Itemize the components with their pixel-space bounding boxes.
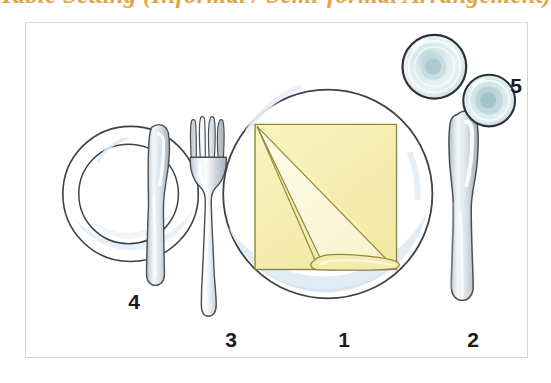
dinner-fork-group bbox=[190, 117, 226, 317]
side-plate-group bbox=[63, 126, 198, 261]
callout-label-3: 3 bbox=[219, 329, 243, 350]
callout-label-2: 2 bbox=[461, 329, 485, 350]
table-setting-illustration bbox=[26, 23, 527, 357]
dinner-knife-group bbox=[449, 111, 478, 300]
callout-label-4: 4 bbox=[122, 291, 146, 312]
water-glass-group bbox=[402, 35, 466, 99]
page-title: Table Setting (Informal / Semi-formal Ar… bbox=[0, 0, 551, 9]
callout-label-1: 1 bbox=[332, 329, 356, 350]
figure-title-strip: Table Setting (Informal / Semi-formal Ar… bbox=[0, 0, 551, 14]
table-setting-diagram: 1 2 3 4 5 bbox=[25, 22, 528, 358]
folded-napkin-group bbox=[255, 124, 399, 270]
callout-label-5: 5 bbox=[504, 75, 528, 96]
